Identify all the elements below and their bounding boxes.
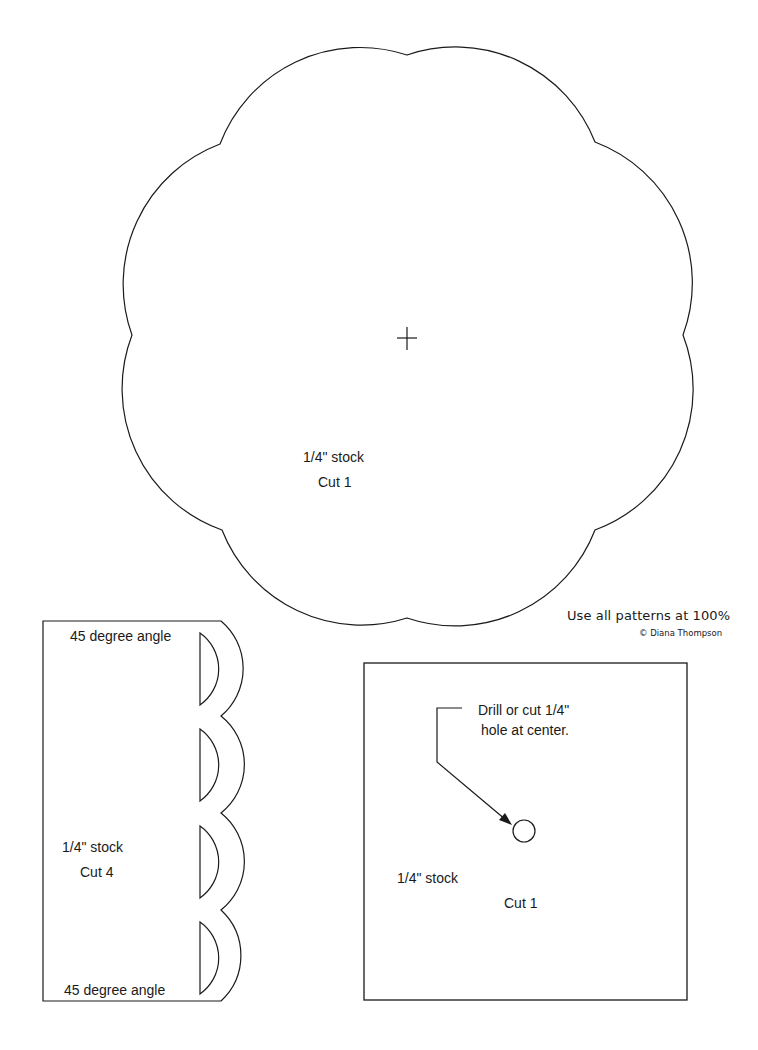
pattern-sheet: [0, 0, 758, 1050]
side-piece-outline: [43, 621, 244, 1001]
half-disc-cutout: [200, 826, 219, 898]
copyright-note: © Diana Thompson: [639, 629, 722, 638]
flower-stock-label: 1/4" stock: [303, 450, 364, 464]
drill-instruction-line1: Drill or cut 1/4": [478, 703, 569, 717]
square-stock-label: 1/4" stock: [397, 871, 458, 885]
side-cut-label: Cut 4: [80, 865, 113, 879]
half-disc-cutout: [200, 729, 219, 801]
side-top-angle-label: 45 degree angle: [70, 629, 171, 643]
center-hole: [513, 820, 535, 842]
flower-outline: [122, 47, 693, 626]
scale-note: Use all patterns at 100%: [567, 609, 730, 622]
drill-instruction-line2: hole at center.: [481, 723, 569, 737]
side-bottom-angle-label: 45 degree angle: [64, 983, 165, 997]
flower-cut-label: Cut 1: [318, 475, 351, 489]
arrowhead-icon: [499, 813, 512, 825]
side-stock-label: 1/4" stock: [62, 840, 123, 854]
square-cut-label: Cut 1: [504, 896, 537, 910]
half-disc-cutout: [200, 922, 219, 994]
half-disc-cutout: [200, 633, 219, 705]
half-disc-cutouts: [200, 633, 219, 994]
center-crosshair-icon: [397, 327, 417, 350]
